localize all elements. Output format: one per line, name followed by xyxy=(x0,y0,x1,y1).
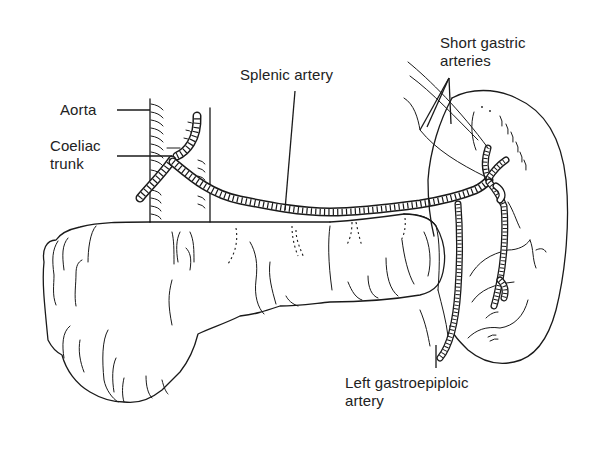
aorta-label: Aorta xyxy=(60,101,96,119)
gastroepiploic-label-line2: artery xyxy=(345,392,469,410)
coeliac-trunk-label: Coeliac trunk xyxy=(50,137,101,173)
left-gastroepiploic-artery-label: Left gastroepiploic artery xyxy=(345,374,469,410)
short-gastric-label-line1: Short gastric xyxy=(440,34,526,52)
anatomy-figure: Aorta Coeliac trunk Splenic artery Short… xyxy=(0,0,599,450)
coeliac-trunk-drawing xyxy=(140,116,197,198)
gastroepiploic-label-line1: Left gastroepiploic xyxy=(345,374,469,392)
splenic-artery-drawing xyxy=(173,162,489,212)
splenic-branches-drawing xyxy=(485,148,506,306)
short-gastric-arteries-drawing xyxy=(404,62,488,176)
coeliac-label-line2: trunk xyxy=(50,155,101,173)
short-gastric-label-line2: arteries xyxy=(440,52,526,70)
splenic-artery-label: Splenic artery xyxy=(240,66,333,84)
coeliac-label-line1: Coeliac xyxy=(50,137,101,155)
splenic-leader xyxy=(285,91,295,210)
short-gastric-arteries-label: Short gastric arteries xyxy=(440,34,526,70)
spleen-drawing xyxy=(428,91,568,364)
